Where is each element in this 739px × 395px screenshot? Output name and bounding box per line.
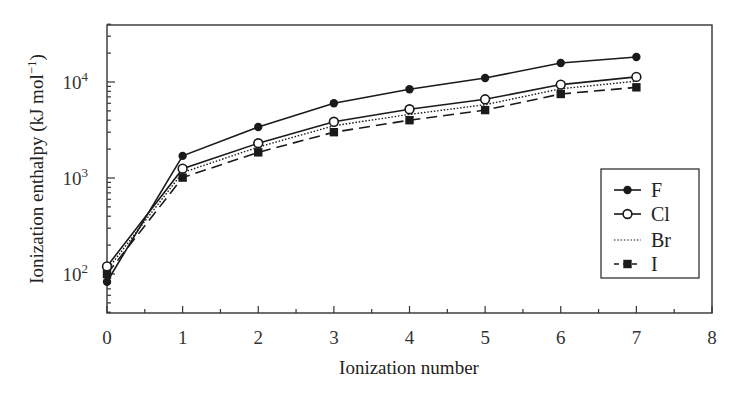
filled-circle-marker [330, 99, 338, 107]
filled-square-marker [632, 83, 640, 91]
open-circle-marker [556, 80, 565, 89]
x-tick-label: 0 [102, 327, 112, 348]
filled-circle-marker [481, 74, 489, 82]
x-tick-label: 5 [480, 327, 490, 348]
x-axis-title: Ionization number [339, 357, 479, 378]
open-circle-marker [405, 105, 414, 114]
data-series [103, 53, 641, 286]
filled-square-marker [405, 116, 413, 124]
filled-square-marker [481, 106, 489, 114]
open-circle-marker [481, 95, 490, 104]
x-tick-label: 2 [254, 327, 264, 348]
filled-square-marker [254, 148, 262, 156]
open-circle-marker [329, 117, 338, 126]
filled-square-marker [178, 173, 186, 181]
legend-box [601, 169, 699, 278]
x-tick-label: 7 [632, 327, 642, 348]
ionization-enthalpy-chart: 102103104 012345678 Ionization number Io… [0, 0, 739, 395]
y-tick-label: 104 [63, 69, 89, 93]
filled-square-marker [557, 90, 565, 98]
y-tick-label: 103 [63, 165, 89, 189]
x-tick-label: 3 [329, 327, 339, 348]
filled-circle-marker [632, 53, 640, 61]
series-cl [103, 73, 641, 271]
open-circle-marker [178, 164, 187, 173]
y-axis-tick-labels: 102103104 [63, 69, 89, 285]
x-tick-label: 1 [178, 327, 188, 348]
filled-circle-marker [178, 152, 186, 160]
open-circle-marker [103, 262, 112, 271]
legend-label: F [651, 179, 662, 201]
y-tick-label: 102 [63, 261, 89, 285]
y-axis-title: Ionization enthalpy (kJ mol−1) [24, 54, 48, 284]
filled-square-marker [623, 260, 631, 268]
legend-label: Cl [651, 203, 670, 225]
open-circle-marker [632, 73, 641, 82]
open-circle-marker [623, 210, 632, 219]
filled-square-marker [330, 128, 338, 136]
filled-circle-marker [557, 59, 565, 67]
x-tick-label: 4 [405, 327, 415, 348]
open-circle-marker [254, 139, 263, 148]
x-axis-tick-labels: 012345678 [102, 327, 717, 348]
legend-label: Br [651, 229, 671, 251]
filled-circle-marker [405, 85, 413, 93]
filled-circle-marker [103, 278, 111, 286]
filled-circle-marker [254, 123, 262, 131]
x-axis-ticks [107, 306, 712, 313]
x-tick-label: 6 [556, 327, 566, 348]
x-tick-label: 8 [707, 327, 717, 348]
series-i [103, 83, 641, 278]
legend-label: I [651, 253, 658, 275]
legend: FClBrI [601, 169, 699, 278]
filled-circle-marker [623, 186, 631, 194]
